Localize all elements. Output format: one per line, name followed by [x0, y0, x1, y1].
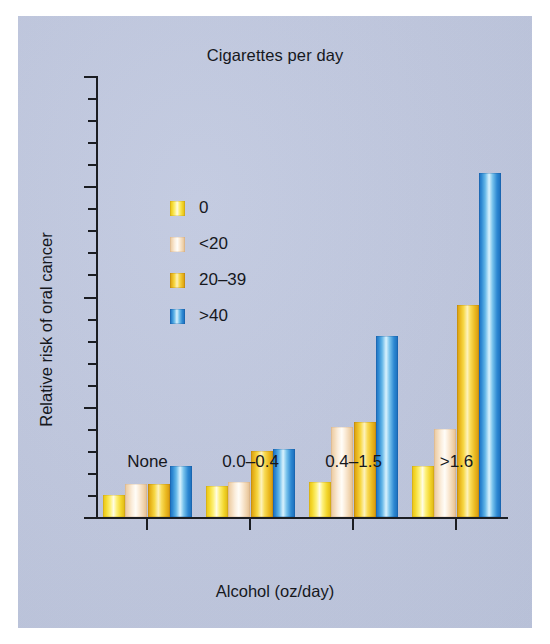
y-axis-major-tick: [84, 76, 96, 78]
legend-swatch-icon: [170, 201, 185, 216]
y-axis-minor-tick: [88, 319, 96, 321]
y-axis-minor-tick: [88, 252, 96, 254]
bar-series-0: [103, 495, 125, 517]
chart-title: Cigarettes per day: [0, 46, 550, 65]
y-axis-title: Relative risk of oral cancer: [37, 180, 56, 480]
legend-item: <20: [170, 226, 320, 262]
x-axis-group-tick: [146, 517, 148, 530]
bar-series-gt40: [376, 336, 398, 517]
x-axis-tick-label: 0.0–0.4: [222, 452, 279, 472]
legend-swatch-icon: [170, 273, 185, 288]
legend-item: 0: [170, 190, 320, 226]
legend: 0<2020–39>40: [170, 190, 320, 334]
y-axis-minor-tick: [88, 341, 96, 343]
y-axis-minor-tick: [88, 98, 96, 100]
bar-series-0: [412, 466, 434, 517]
x-axis-group-tick: [249, 517, 251, 530]
legend-label: <20: [199, 234, 228, 254]
legend-swatch-icon: [170, 237, 185, 252]
bar-series-lt20: [125, 484, 147, 517]
y-axis-minor-tick: [88, 495, 96, 497]
x-axis-line: [96, 517, 508, 519]
legend-label: 0: [199, 198, 208, 218]
bar-series-20-39: [457, 305, 479, 517]
y-axis-minor-tick: [88, 451, 96, 453]
legend-item: 20–39: [170, 262, 320, 298]
y-axis-major-tick: [84, 297, 96, 299]
x-axis-tick-label: None: [127, 452, 168, 472]
y-axis-major-tick: [84, 407, 96, 409]
y-axis-minor-tick: [88, 429, 96, 431]
bar-series-20-39: [148, 484, 170, 517]
x-axis-title: Alcohol (oz/day): [0, 582, 550, 601]
legend-swatch-icon: [170, 309, 185, 324]
legend-item: >40: [170, 298, 320, 334]
bar-series-0: [206, 486, 228, 517]
bar-series-lt20: [434, 429, 456, 517]
y-axis-minor-tick: [88, 385, 96, 387]
y-axis-line: [96, 76, 98, 517]
legend-label: >40: [199, 306, 228, 326]
figure: Cigarettes per day Relative risk of oral…: [0, 0, 550, 644]
x-axis-tick-label: 0.4–1.5: [325, 452, 382, 472]
y-axis-major-tick: [84, 517, 96, 519]
bar-series-lt20: [228, 482, 250, 517]
y-axis-minor-tick: [88, 120, 96, 122]
y-axis-minor-tick: [88, 142, 96, 144]
y-axis-minor-tick: [88, 230, 96, 232]
y-axis-minor-tick: [88, 164, 96, 166]
legend-label: 20–39: [199, 270, 246, 290]
x-axis-group-tick: [352, 517, 354, 530]
bar-series-gt40: [170, 466, 192, 517]
y-axis-minor-tick: [88, 274, 96, 276]
y-axis-minor-tick: [88, 363, 96, 365]
y-axis-minor-tick: [88, 208, 96, 210]
y-axis-major-tick: [84, 186, 96, 188]
y-axis-minor-tick: [88, 473, 96, 475]
bar-series-0: [309, 482, 331, 517]
x-axis-group-tick: [455, 517, 457, 530]
x-axis-tick-label: >1.6: [440, 452, 474, 472]
bar-series-gt40: [479, 173, 501, 517]
